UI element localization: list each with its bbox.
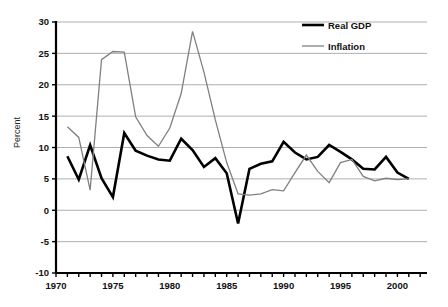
gridlines-group [56,22,427,273]
x-axis-tick-label: 1970 [45,280,66,291]
x-axis-tick-label: 1975 [102,280,124,291]
y-axis-group: 302520151050-5-10 [35,16,56,278]
x-axis-tick-label: 1990 [273,280,294,291]
y-axis-tick-labels: 302520151050-5-10 [35,16,49,278]
chart-container: 302520151050-5-10 1970197519801985199019… [0,0,448,307]
y-axis-tick-label: 0 [44,205,49,216]
x-axis-tick-label: 1995 [330,280,352,291]
y-axis-tick-label: 30 [38,16,49,27]
x-axis-tick-label: 2000 [387,280,408,291]
x-axis-tick-labels: 1970197519801985199019952000 [45,280,408,291]
legend-label-real-gdp: Real GDP [328,20,372,31]
y-axis-tick-label: 20 [38,79,49,90]
y-axis-tick-label: 15 [38,111,49,122]
y-axis-tick-label: -10 [35,267,49,278]
y-axis-tick-label: -5 [41,236,50,247]
x-axis-tick-label: 1980 [159,280,180,291]
y-axis-tick-label: 25 [38,48,49,59]
x-axis-group: 1970197519801985199019952000 [45,273,427,291]
chart-legend: Real GDPInflation [302,20,372,52]
x-axis-tick-label: 1985 [216,280,238,291]
y-axis-title: Percent [12,116,22,148]
data-series-group [67,31,408,223]
line-chart: 302520151050-5-10 1970197519801985199019… [0,0,448,307]
y-axis-tick-label: 5 [44,173,50,184]
y-axis-tick-label: 10 [38,142,49,153]
legend-label-inflation: Inflation [328,41,365,52]
series-line-real-gdp [67,133,408,223]
